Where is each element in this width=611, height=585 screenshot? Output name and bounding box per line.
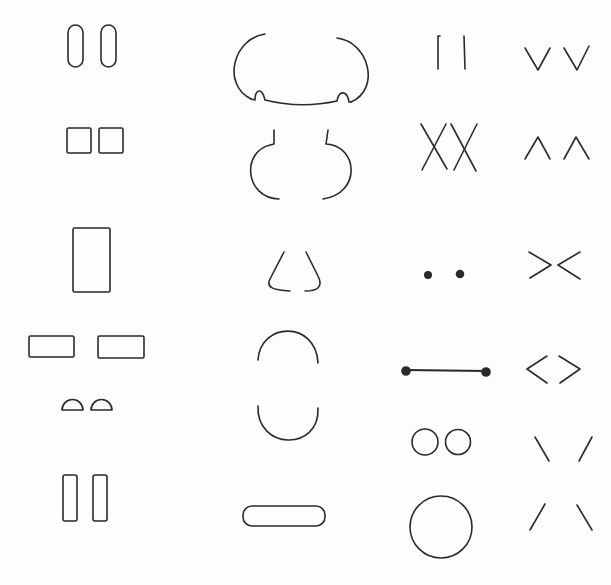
circle-shape (410, 496, 472, 558)
rect-shape (73, 228, 110, 292)
caret-pair-shape (525, 137, 589, 159)
vertical-bars-shape (438, 36, 465, 69)
rounded-rect-shape (101, 25, 116, 67)
diagonals-top-shape (535, 437, 592, 461)
shape-column-col-1 (29, 25, 144, 521)
pencil-sketch-shapes (0, 0, 611, 585)
half-disc-shape (62, 400, 83, 411)
arc-bottom-shape (258, 406, 318, 440)
rounded-rect-shape (93, 475, 107, 521)
capsule-shape (243, 506, 325, 526)
angle-inward-shape (529, 252, 580, 279)
circles-pair-shape (412, 429, 471, 455)
shapes-layer (29, 25, 592, 558)
dots-shape (425, 271, 464, 279)
v-pair-shape (525, 46, 589, 70)
bracket-arcs-shape (251, 130, 352, 199)
rect-shape (98, 336, 144, 358)
angle-outward-shape (527, 356, 580, 383)
shape-column-col-2 (234, 34, 368, 526)
rect-shape (99, 128, 123, 153)
rect-shape (67, 128, 91, 153)
rounded-rect-shape (63, 475, 77, 521)
arc-top-shape (258, 331, 318, 363)
sketch-canvas (0, 0, 611, 585)
shape-column-col-3 (402, 36, 490, 558)
shape-column-col-4 (525, 46, 592, 530)
rect-shape (29, 336, 74, 357)
arc-cloud-bottom-shape (234, 34, 368, 105)
dumbbell-line-shape (402, 367, 490, 376)
double-x-shape (421, 124, 477, 171)
diagonals-bottom-shape (530, 504, 592, 530)
nose-triangle-shape (269, 252, 320, 291)
rounded-rect-shape (68, 25, 83, 67)
half-disc-shape (91, 400, 112, 411)
